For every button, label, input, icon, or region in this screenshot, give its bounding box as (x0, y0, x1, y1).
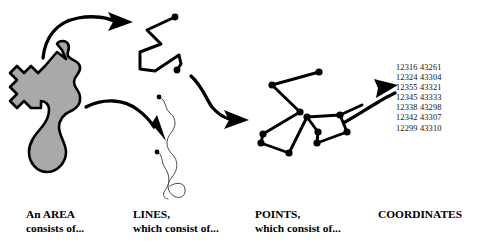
point-node (313, 139, 320, 146)
point-node (285, 149, 292, 156)
points-network-edges (261, 72, 362, 153)
arrow-area-to-squiggles (86, 101, 166, 141)
arrow-points-to-coordinates (345, 79, 398, 122)
line-endpoint-node (172, 14, 179, 21)
point-node (259, 130, 266, 137)
line-endpoint-node (157, 95, 162, 100)
zigzag-line (140, 14, 181, 74)
caption-lines-line2: which consist of... (133, 222, 219, 236)
line-endpoint-node (155, 150, 160, 155)
points-network-nodes (257, 68, 350, 156)
caption-points-line1: POINTS, (255, 208, 341, 222)
coordinate-row: 12338 43298 (396, 103, 442, 113)
coordinate-row: 12345 43333 (396, 93, 442, 103)
points-network (257, 68, 362, 156)
coordinate-row: 12355 43321 (396, 83, 442, 93)
coordinate-row: 12316 43261 (396, 63, 442, 73)
caption-points: POINTS, which consist of... (255, 208, 341, 235)
point-node (343, 128, 350, 135)
squiggle-line-right (157, 95, 186, 198)
caption-coordinates: COORDINATES (378, 208, 462, 222)
caption-points-line2: which consist of... (255, 222, 341, 236)
diagram-stage: 12316 43261 12324 43304 12355 43321 1234… (0, 0, 483, 248)
caption-lines: LINES, which consist of... (133, 208, 219, 235)
point-node (296, 108, 303, 115)
caption-lines-line1: LINES, (133, 208, 219, 222)
point-node (314, 128, 321, 135)
point-node (303, 113, 310, 120)
coordinate-row: 12342 43307 (396, 113, 442, 123)
squiggle-line-left (155, 150, 169, 199)
coordinate-row: 12324 43304 (396, 73, 442, 83)
caption-coordinates-line1: COORDINATES (378, 208, 462, 222)
gray-area-polygon (10, 41, 80, 172)
line-endpoint-node (174, 67, 181, 74)
point-node (315, 68, 322, 75)
caption-area-line2: consists of... (26, 222, 84, 236)
coordinate-list: 12316 43261 12324 43304 12355 43321 1234… (396, 63, 442, 134)
point-node (268, 81, 275, 88)
coordinate-row: 12299 43310 (396, 124, 442, 134)
caption-area: An AREA consists of... (26, 208, 84, 235)
point-node (257, 139, 264, 146)
arrow-lines-to-points (191, 76, 249, 129)
caption-area-line1: An AREA (26, 208, 84, 222)
point-node (336, 111, 343, 118)
